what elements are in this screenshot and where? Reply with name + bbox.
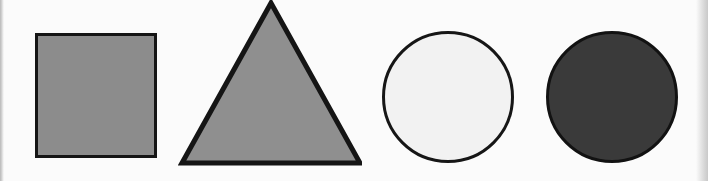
shape-square	[35, 33, 157, 158]
shape-triangle-svg	[178, 0, 362, 166]
shape-triangle-polygon	[182, 3, 360, 163]
page-edge-left	[0, 0, 4, 181]
figure-canvas	[0, 0, 708, 181]
shape-triangle	[178, 0, 362, 166]
shape-circle-light	[382, 31, 514, 163]
shape-circle-dark	[546, 31, 678, 163]
page-edge-right	[696, 0, 708, 181]
